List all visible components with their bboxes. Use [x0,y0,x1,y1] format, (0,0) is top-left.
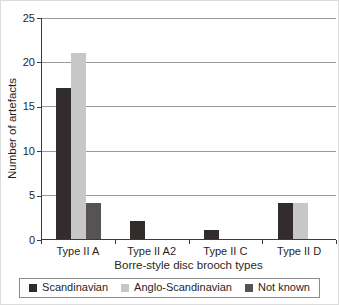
bar-type-ii-d-scandinavian [278,203,293,239]
y-tick-mark [37,107,41,108]
y-tick-mark [37,18,41,19]
x-tick-label-type-ii-a2: Type II A2 [115,245,189,258]
x-tick-label-type-ii-a: Type II A [41,245,115,258]
legend-label: Not known [258,281,310,294]
legend-label: Anglo-Scandinavian [134,281,232,294]
y-tick-label: 0 [1,234,35,247]
legend-swatch-icon [121,284,129,292]
legend-row: ScandinavianAnglo-ScandinavianNot known [1,278,338,298]
legend-swatch-icon [245,284,253,292]
bar-type-ii-a-scandinavian [56,88,71,239]
x-axis-title: Borre-style disc brooch types [41,259,336,271]
bar-type-ii-d-anglo-scandinavian [293,203,308,239]
x-tick-mark [41,240,42,244]
y-tick-mark [37,151,41,152]
bar-type-ii-c-scandinavian [204,230,219,239]
bar-type-ii-a2-scandinavian [130,221,145,239]
legend-label: Scandinavian [42,281,108,294]
x-tick-label-type-ii-d: Type II D [262,245,336,258]
y-tick-label: 20 [1,56,35,69]
y-tick-mark [37,62,41,63]
gridline-y25 [42,18,336,19]
plot-area [41,18,336,240]
legend-item-not-known: Not known [245,281,310,294]
bar-type-ii-a-not-known [86,203,101,239]
y-tick-label: 5 [1,189,35,202]
y-tick-label: 25 [1,12,35,25]
legend-swatch-icon [29,284,37,292]
legend-item-anglo-scandinavian: Anglo-Scandinavian [121,281,232,294]
y-axis-title: Number of artefacts [4,18,19,240]
x-tick-mark [336,240,337,244]
y-tick-label: 15 [1,100,35,113]
bar-chart-figure: Number of artefacts Borre-style disc bro… [0,0,339,305]
x-tick-mark [189,240,190,244]
y-tick-mark [37,196,41,197]
x-tick-label-type-ii-c: Type II C [189,245,263,258]
y-tick-label: 10 [1,145,35,158]
x-tick-mark [115,240,116,244]
bar-type-ii-a-anglo-scandinavian [71,53,86,239]
legend-item-scandinavian: Scandinavian [29,281,108,294]
x-tick-mark [262,240,263,244]
legend: ScandinavianAnglo-ScandinavianNot known [19,278,320,298]
